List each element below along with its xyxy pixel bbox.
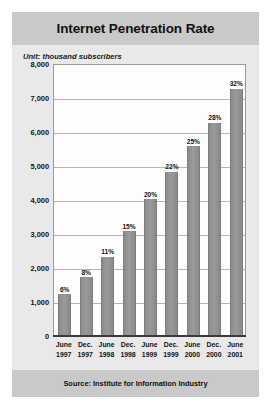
x-axis-tick-label: Dec.2000 <box>203 340 224 359</box>
bar-value-label: 22% <box>165 163 178 170</box>
y-axis-tick-label: 1,000 <box>31 298 50 307</box>
x-axis-tick-line: Dec. <box>118 340 139 350</box>
chart-source-band: Source: Institute for Information Indust… <box>12 370 259 397</box>
bar[interactable] <box>101 257 114 335</box>
bar-slot: 32% <box>230 63 243 335</box>
bar-value-label: 15% <box>122 223 135 230</box>
bar-slot: 11% <box>101 63 114 335</box>
x-axis-tick-label: June2000 <box>182 340 203 359</box>
bar-slot: 6% <box>58 63 71 335</box>
x-axis-tick-line: 1999 <box>160 350 181 360</box>
bar-slot: 20% <box>144 63 157 335</box>
x-axis-tick-line: June <box>182 340 203 350</box>
chart-title: Internet Penetration Rate <box>56 21 214 36</box>
y-axis-tick-label: 8,000 <box>31 60 50 69</box>
bar-slot: 25% <box>187 63 200 335</box>
chart-title-band: Internet Penetration Rate <box>12 12 259 45</box>
bar-slot: 15% <box>123 63 136 335</box>
bar[interactable] <box>187 146 200 335</box>
x-axis-tick-label: June1998 <box>96 340 117 359</box>
x-axis-tick-line: 1997 <box>75 350 96 360</box>
chart-figure: Internet Penetration Rate Unit: thousand… <box>12 12 259 397</box>
x-axis-tick-line: Dec. <box>75 340 96 350</box>
x-axis-tick-line: 2001 <box>225 350 246 360</box>
x-axis-tick-label: June2001 <box>225 340 246 359</box>
x-axis-tick-line: 1999 <box>139 350 160 360</box>
y-axis-tick-label: 0 <box>45 332 49 341</box>
x-axis-tick-line: June <box>96 340 117 350</box>
bar[interactable] <box>58 294 71 335</box>
bar[interactable] <box>144 199 157 335</box>
plot-area: 6%8%11%15%20%22%25%28%32% <box>53 64 246 336</box>
x-axis-baseline <box>53 335 246 337</box>
bar-value-label: 20% <box>144 191 157 198</box>
bar[interactable] <box>123 231 136 335</box>
bar[interactable] <box>165 172 178 335</box>
y-axis-tick-label: 7,000 <box>31 94 50 103</box>
bar-value-label: 32% <box>230 80 243 87</box>
x-axis-tick-label: Dec.1997 <box>75 340 96 359</box>
y-axis-tick-label: 5,000 <box>31 162 50 171</box>
bar[interactable] <box>208 123 221 336</box>
x-axis: June1997Dec.1997June1998Dec.1998June1999… <box>53 340 246 364</box>
bar-value-label: 28% <box>208 114 221 121</box>
y-axis-tick-label: 6,000 <box>31 128 50 137</box>
x-axis-tick-line: Dec. <box>160 340 181 350</box>
y-axis-tick-label: 4,000 <box>31 196 50 205</box>
x-axis-tick-line: June <box>225 340 246 350</box>
bar-value-label: 6% <box>60 286 70 293</box>
bar-slot: 28% <box>208 63 221 335</box>
bar[interactable] <box>80 277 93 335</box>
y-axis-tick-label: 3,000 <box>31 230 50 239</box>
x-axis-tick-label: Dec.1999 <box>160 340 181 359</box>
bar-value-label: 25% <box>187 138 200 145</box>
x-axis-tick-line: June <box>139 340 160 350</box>
chart-source: Source: Institute for Information Indust… <box>63 379 207 388</box>
x-axis-tick-label: June1999 <box>139 340 160 359</box>
bar-slot: 8% <box>80 63 93 335</box>
x-axis-tick-line: 2000 <box>182 350 203 360</box>
bar-value-label: 11% <box>101 248 114 255</box>
bar-value-label: 8% <box>81 269 91 276</box>
x-axis-tick-line: June <box>53 340 74 350</box>
x-axis-tick-line: 1998 <box>96 350 117 360</box>
bar-series: 6%8%11%15%20%22%25%28%32% <box>54 65 245 335</box>
bar[interactable] <box>230 89 243 336</box>
plot-wrapper: 8,0007,0006,0005,0004,0003,0002,0001,000… <box>22 64 249 364</box>
bar-slot: 22% <box>165 63 178 335</box>
y-axis-tick-label: 2,000 <box>31 264 50 273</box>
x-axis-tick-label: Dec.1998 <box>118 340 139 359</box>
x-axis-tick-line: 1997 <box>53 350 74 360</box>
x-axis-tick-line: 1998 <box>118 350 139 360</box>
x-axis-tick-line: Dec. <box>203 340 224 350</box>
x-axis-tick-label: June1997 <box>53 340 74 359</box>
y-axis: 8,0007,0006,0005,0004,0003,0002,0001,000… <box>22 64 51 336</box>
x-axis-tick-line: 2000 <box>203 350 224 360</box>
